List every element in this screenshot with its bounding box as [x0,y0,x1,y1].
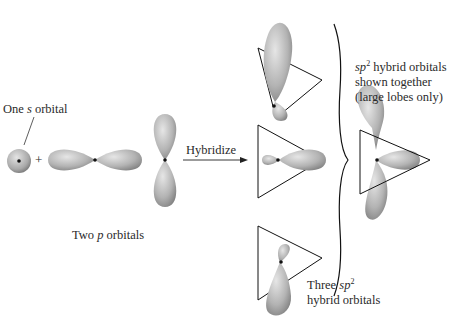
p-orbital-horizontal [48,150,142,171]
three-sp2-label: Three sp2 hybrid orbitals [307,278,380,308]
s-orbital-leader-line [24,117,34,145]
hybridize-label: Hybridize [186,143,236,157]
hybridize-arrow [183,157,248,163]
sp2-together-label: sp2 hybrid orbitals shown together (larg… [355,60,447,105]
nucleus-dot [17,159,21,163]
sp2-hybrid-orbital-1 [258,23,322,121]
sp2-hybrid-orbital-2 [258,125,326,198]
sp2-hybrid-orbitals-combined [358,85,430,220]
plus-sign: + [35,153,42,167]
p-orbital-vertical [154,114,177,207]
diagram-canvas [0,0,452,321]
p-orbitals-label: Two p orbitals [72,228,144,242]
grouping-brace [334,24,348,296]
s-orbital [7,117,34,173]
s-orbital-label: One s orbital [3,102,68,116]
